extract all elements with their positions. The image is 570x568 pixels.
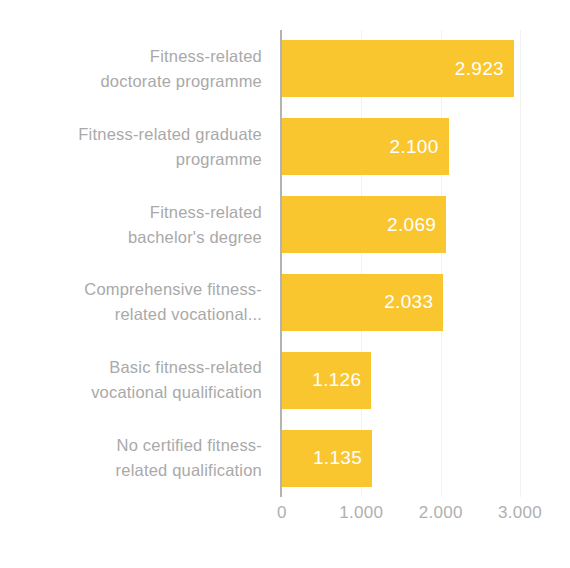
bar-value-label: 2.069 bbox=[387, 214, 436, 236]
bar-value-label: 1.135 bbox=[313, 447, 362, 469]
bar-value-label: 2.100 bbox=[390, 136, 439, 158]
value-axis-tick-labels: 01.0002.0003.000 bbox=[280, 503, 570, 533]
bar-value-label: 1.126 bbox=[312, 369, 361, 391]
bar-value-label: 2.923 bbox=[455, 58, 504, 80]
bar[interactable]: 2.033 bbox=[282, 274, 443, 331]
category-label: Fitness-related graduateprogramme bbox=[0, 118, 262, 175]
bar[interactable]: 2.923 bbox=[282, 40, 514, 97]
gridline bbox=[441, 30, 442, 497]
bar[interactable]: 2.100 bbox=[282, 118, 449, 175]
bar-chart: Fitness-relateddoctorate programmeFitnes… bbox=[0, 0, 570, 568]
x-tick-label: 1.000 bbox=[339, 503, 383, 523]
bar[interactable]: 2.069 bbox=[282, 196, 446, 253]
category-axis-labels: Fitness-relateddoctorate programmeFitnes… bbox=[0, 30, 272, 497]
bar[interactable]: 1.126 bbox=[282, 352, 371, 409]
category-label: Fitness-relatedbachelor's degree bbox=[0, 196, 262, 253]
category-label: No certified fitness-related qualificati… bbox=[0, 430, 262, 487]
bar[interactable]: 1.135 bbox=[282, 430, 372, 487]
bar-value-label: 2.033 bbox=[384, 291, 433, 313]
value-axis-line bbox=[280, 30, 282, 497]
x-tick-label: 0 bbox=[277, 503, 287, 523]
x-tick-label: 3.000 bbox=[498, 503, 542, 523]
category-label: Basic fitness-relatedvocational qualific… bbox=[0, 352, 262, 409]
plot-area: 2.9232.1002.0692.0331.1261.135 bbox=[280, 30, 570, 497]
category-label: Comprehensive fitness-related vocational… bbox=[0, 274, 262, 331]
gridline bbox=[361, 30, 362, 497]
x-tick-label: 2.000 bbox=[419, 503, 463, 523]
gridline bbox=[520, 30, 521, 497]
category-label: Fitness-relateddoctorate programme bbox=[0, 40, 262, 97]
